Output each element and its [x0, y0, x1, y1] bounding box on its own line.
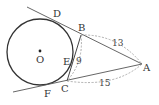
measure-ac: 15 [99, 78, 111, 88]
tangent-line-ad [27, 7, 142, 64]
label-o: O [36, 54, 44, 65]
label-c: C [61, 83, 69, 94]
center-point-o [39, 50, 42, 53]
label-e: E [63, 56, 70, 67]
label-d: D [53, 8, 61, 19]
geometry-diagram: O D B A C E F 13 9 15 [0, 0, 159, 105]
tangent-line-af [13, 64, 142, 92]
label-b: B [78, 22, 85, 33]
measure-ab: 13 [112, 38, 124, 48]
label-f: F [44, 88, 51, 99]
label-a: A [142, 62, 151, 73]
measure-bc: 9 [76, 56, 82, 66]
diagram-canvas: O D B A C E F 13 9 15 [0, 0, 159, 105]
